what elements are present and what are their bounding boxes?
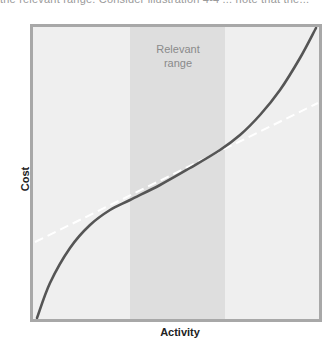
plot-right-region <box>225 27 319 319</box>
relevant-range-label-line2: range <box>138 56 218 70</box>
x-axis-label: Activity <box>140 326 220 338</box>
relevant-range-label-line1: Relevant <box>138 42 218 56</box>
plot-left-region <box>33 27 130 319</box>
relevant-range-label: Relevant range <box>138 42 218 70</box>
y-axis-label: Cost <box>19 154 35 204</box>
